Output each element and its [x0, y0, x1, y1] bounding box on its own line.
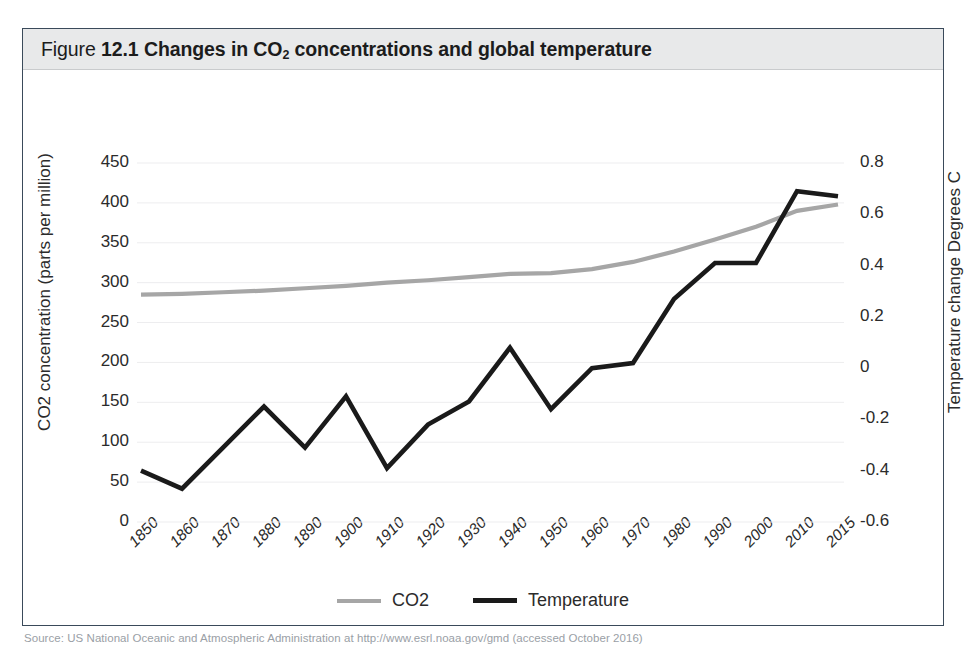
legend-label: Temperature — [528, 590, 629, 611]
legend-label: CO2 — [392, 590, 429, 611]
figure-title-post: concentrations and global temperature — [289, 38, 651, 60]
page-title: Figure 12.1 Changes in CO2 concentration… — [23, 38, 652, 61]
chart-canvas — [23, 70, 943, 590]
legend-item-co2[interactable]: CO2 — [337, 590, 429, 611]
chart-legend: CO2Temperature — [23, 590, 943, 611]
right-axis-title: Temperature change Degrees C — [945, 122, 965, 462]
legend-item-temperature[interactable]: Temperature — [473, 590, 629, 611]
series-lines — [141, 191, 838, 488]
figure-title-subscript: 2 — [282, 48, 289, 62]
figure-number: 12.1 — [101, 38, 139, 60]
figure-frame: Figure 12.1 Changes in CO2 concentration… — [22, 28, 944, 626]
source-note: Source: US National Oceanic and Atmosphe… — [24, 632, 643, 644]
chart-plot-area: CO2 concentration (parts per million) Te… — [23, 70, 943, 627]
figure-title-pre: Changes in CO — [144, 38, 282, 60]
figure-label: Figure — [41, 38, 96, 60]
legend-swatch-icon — [337, 599, 381, 603]
legend-swatch-icon — [473, 598, 517, 603]
figure-title-band: Figure 12.1 Changes in CO2 concentration… — [23, 29, 943, 70]
series-line-co2 — [141, 204, 838, 294]
gridlines — [137, 163, 844, 522]
